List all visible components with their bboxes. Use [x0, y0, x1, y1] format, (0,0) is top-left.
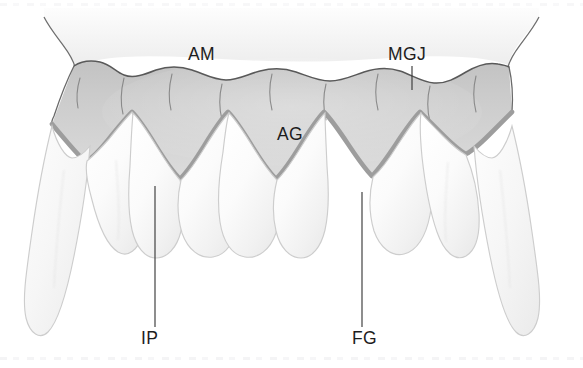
label-fg: FG — [352, 328, 377, 348]
gingival-anatomy-illustration: AM MGJ AG IP FG — [0, 0, 583, 368]
label-mgj: MGJ — [388, 44, 426, 64]
label-ag: AG — [277, 124, 303, 144]
anatomy-figure: AM MGJ AG IP FG — [0, 0, 583, 368]
label-ip: IP — [141, 328, 158, 348]
tooth-canine-right-outer — [474, 126, 540, 336]
tooth-canine-left-outer — [24, 126, 90, 336]
alveolar-mucosa-shape — [44, 8, 539, 66]
label-am: AM — [188, 44, 215, 64]
scan-artifact-bottom — [0, 357, 583, 360]
